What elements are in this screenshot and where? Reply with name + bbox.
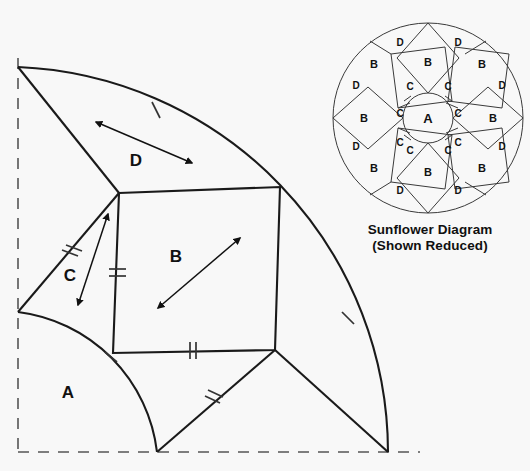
sunflower-label-d-1: D <box>396 37 403 48</box>
sunflower-label-c-6: C <box>454 137 461 148</box>
sunflower-label-d-2: D <box>454 37 461 48</box>
sunflower-caption-line2: (Shown Reduced) <box>330 238 530 254</box>
sunflower-label-c-8: C <box>444 145 451 156</box>
sunflower-label-b-se: B <box>478 162 486 174</box>
sunflower-label-b-s: B <box>424 166 432 178</box>
sunflower-label-c-7: C <box>406 145 413 156</box>
sunflower-label-d-5: D <box>352 141 359 152</box>
piece-label-b: B <box>170 247 182 266</box>
figure-root: A B C D <box>0 0 530 471</box>
sunflower-label-b-nw: B <box>370 58 378 70</box>
sunflower-label-b-w: B <box>360 112 368 124</box>
sunflower-label-d-3: D <box>352 80 359 91</box>
sunflower-label-a: A <box>423 111 433 126</box>
sunflower-label-d-4: D <box>498 80 505 91</box>
sunflower-label-c-3: C <box>396 108 403 119</box>
sunflower-label-b-e: B <box>489 112 497 124</box>
piece-label-c: C <box>64 266 76 285</box>
sunflower-label-c-5: C <box>396 137 403 148</box>
sunflower-label-b-ne: B <box>478 58 486 70</box>
sunflower-label-c-1: C <box>406 81 413 92</box>
sunflower-label-c-2: C <box>444 81 451 92</box>
sunflower-caption-line1: Sunflower Diagram <box>330 222 530 238</box>
sunflower-label-c-4: C <box>454 108 461 119</box>
sunflower-label-b-sw: B <box>370 162 378 174</box>
sunflower-label-d-6: D <box>498 141 505 152</box>
sunflower-label-d-8: D <box>454 185 461 196</box>
piece-label-a: A <box>62 383 74 402</box>
sunflower-label-d-7: D <box>396 185 403 196</box>
sunflower-label-b-n: B <box>424 56 432 68</box>
sunflower-caption: Sunflower Diagram (Shown Reduced) <box>330 222 530 254</box>
piece-label-d: D <box>130 151 142 170</box>
